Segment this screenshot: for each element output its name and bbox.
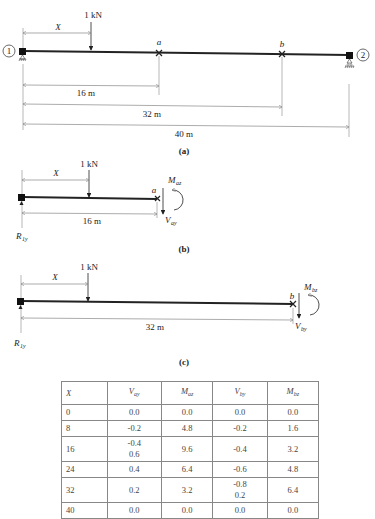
table-row: 16 -0.40.6 9.6-0.43.2 <box>62 437 319 462</box>
col-x: X <box>62 382 108 405</box>
svg-text:16 m: 16 m <box>77 88 95 98</box>
col-mbz: Mbz <box>267 382 318 405</box>
col-maz: Maz <box>161 382 212 405</box>
svg-text:az: az <box>176 180 182 186</box>
table-row: 400.00.00.00.0 <box>62 503 319 519</box>
svg-text:bz: bz <box>312 287 318 293</box>
table-header-row: X Vay Maz Vby Mbz <box>62 382 319 405</box>
table-row: 240.46.4-0.64.8 <box>62 462 319 478</box>
svg-text:ay: ay <box>171 220 177 226</box>
col-vby: Vby <box>213 382 267 405</box>
svg-text:b: b <box>280 39 285 49</box>
figure-a: 1 2 1 kN X a b 16 m 32 m 40 m (a) <box>3 10 369 156</box>
figure-c: 1 kN X b 32 m V by M bz R 1y (c) <box>13 262 319 367</box>
svg-text:X: X <box>52 168 59 178</box>
left-support <box>17 298 24 305</box>
table-row: 8-0.24.8-0.21.6 <box>62 421 319 437</box>
svg-text:16 m: 16 m <box>83 216 101 226</box>
beam <box>23 51 349 55</box>
svg-text:a: a <box>152 185 157 195</box>
svg-text:32 m: 32 m <box>143 109 161 119</box>
svg-text:R: R <box>15 231 22 241</box>
left-support <box>19 48 26 55</box>
svg-text:M: M <box>303 282 312 292</box>
svg-text:R: R <box>13 338 20 348</box>
results-table: X Vay Maz Vby Mbz 00.00.00.00.0 8-0.24.8… <box>61 381 319 519</box>
left-support <box>18 194 25 201</box>
svg-text:1y: 1y <box>22 236 28 242</box>
table-row: 00.00.00.00.0 <box>62 405 319 421</box>
svg-text:1: 1 <box>7 46 12 56</box>
svg-text:a: a <box>157 37 162 47</box>
svg-text:by: by <box>301 326 307 332</box>
figure-b: 1 kN X a 16 m V ay M az R 1y (b) <box>15 159 190 254</box>
table-row: 320.23.2 -0.80.2 6.4 <box>62 478 319 503</box>
beam-diagrams: 1 2 1 kN X a b 16 m 32 m 40 m (a) <box>0 0 375 380</box>
svg-text:32 m: 32 m <box>146 322 164 332</box>
right-support <box>346 52 353 59</box>
svg-text:(c): (c) <box>179 357 189 367</box>
col-vay: Vay <box>107 382 161 405</box>
beam <box>22 197 157 199</box>
svg-text:M: M <box>167 175 176 185</box>
svg-text:1 kN: 1 kN <box>80 159 98 169</box>
svg-text:X: X <box>54 22 61 32</box>
svg-text:(b): (b) <box>179 244 190 254</box>
svg-text:X: X <box>51 272 58 282</box>
svg-text:(a): (a) <box>179 146 190 156</box>
svg-text:40 m: 40 m <box>175 129 193 139</box>
svg-text:1y: 1y <box>20 343 26 349</box>
svg-text:1 kN: 1 kN <box>80 262 98 272</box>
svg-text:1 kN: 1 kN <box>84 10 102 20</box>
beam <box>21 301 293 304</box>
svg-text:b: b <box>290 291 295 301</box>
svg-text:2: 2 <box>361 50 366 60</box>
